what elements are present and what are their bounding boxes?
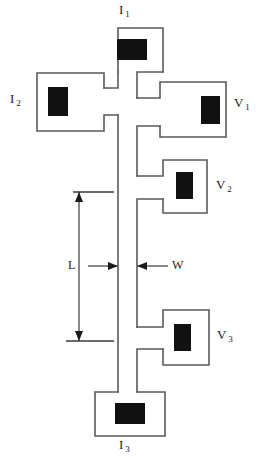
terminal-label-i1: I1 (119, 3, 130, 16)
dimension-label-length: L (68, 259, 76, 271)
terminal-label-v2: V2 (216, 178, 232, 191)
pad-outline-v2 (137, 160, 207, 213)
terminal-label-v3: V3 (217, 328, 233, 341)
dim-W-arrow-right (137, 262, 147, 270)
contact-rect-v2 (176, 172, 193, 199)
channel-right-upper (137, 126, 160, 176)
contact-rect-i1 (117, 39, 147, 60)
device-schematic-svg (0, 0, 260, 457)
contact-rect-i2 (48, 87, 68, 116)
channel-left-upper (104, 72, 118, 88)
channel-right-middle (137, 199, 163, 327)
dim-L-arrow-up (75, 192, 83, 202)
contact-rect-i3 (115, 403, 145, 424)
contact-rect-v3 (174, 324, 191, 351)
channel-right-lower (137, 349, 163, 392)
pad-outline-v3 (137, 310, 209, 365)
channel-right-top (137, 72, 163, 98)
terminal-label-i2: I2 (10, 92, 21, 105)
dim-L-arrow-down (75, 331, 83, 341)
terminal-label-v1: V1 (234, 96, 250, 109)
terminal-label-i3: I3 (119, 438, 130, 451)
contact-rect-v1 (201, 96, 220, 124)
dim-W-arrow-left (108, 262, 118, 270)
device-diagram: I1 I2 V1 V2 V3 I3 L W (0, 0, 260, 457)
dimension-label-width: W (172, 259, 184, 271)
